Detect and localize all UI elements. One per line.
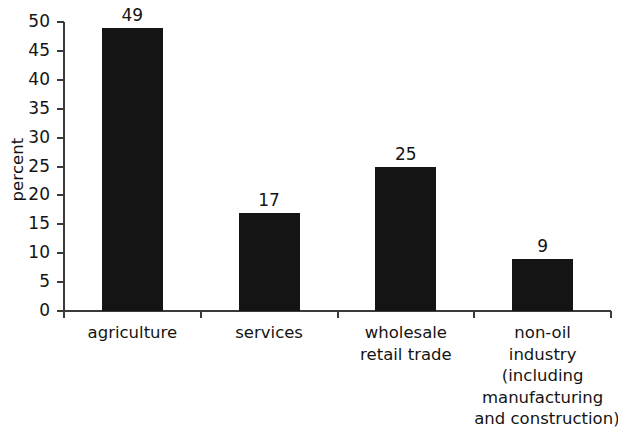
category-label-line: (including [474, 365, 611, 387]
bar [102, 28, 163, 311]
bar-series [102, 28, 573, 311]
category-label-line: services [201, 322, 338, 344]
category-label-line: and construction) [474, 408, 611, 430]
bar-value-label: 49 [92, 6, 172, 24]
x-axis-category-label: services [201, 322, 338, 344]
bar [512, 259, 573, 311]
category-label-line: manufacturing [474, 387, 611, 409]
category-label-line: industry [474, 344, 611, 366]
x-axis-category-label: non-oilindustry(includingmanufacturingan… [474, 322, 611, 430]
category-label-line: wholesale [338, 322, 475, 344]
bar [239, 213, 300, 311]
bar-value-label: 25 [366, 145, 446, 163]
category-label-line: non-oil [474, 322, 611, 344]
bar [375, 167, 436, 312]
bar-value-label: 17 [229, 191, 309, 209]
x-axis-category-label: wholesaleretail trade [338, 322, 475, 365]
x-axis-category-label: agriculture [64, 322, 201, 344]
category-label-line: retail trade [338, 344, 475, 366]
category-label-line: agriculture [64, 322, 201, 344]
bar-value-label: 9 [503, 237, 583, 255]
bar-chart: percent 05101520253035404550 4917259 agr… [0, 0, 618, 441]
